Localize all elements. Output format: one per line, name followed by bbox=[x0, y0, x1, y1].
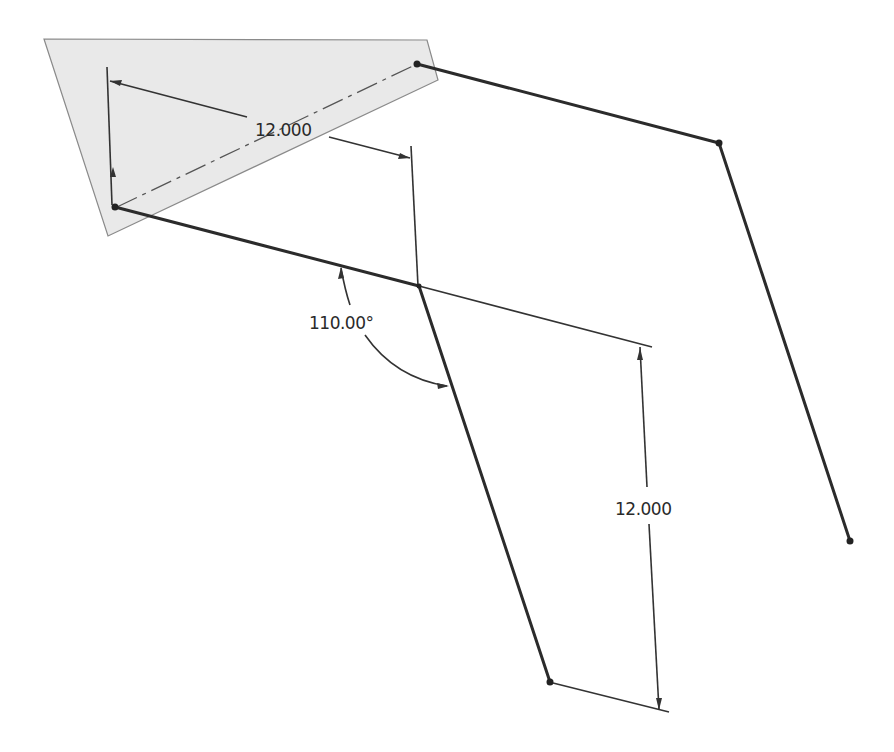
dimension-line-top-b bbox=[329, 137, 410, 158]
sketch-point-top[interactable] bbox=[414, 61, 421, 68]
extension-line-bottom bbox=[553, 683, 669, 712]
angle-arrowhead-upper-icon bbox=[338, 267, 344, 279]
angle-arc-lower bbox=[365, 335, 447, 386]
dimension-line-right-b bbox=[649, 524, 659, 710]
sketch-point-left[interactable] bbox=[112, 204, 119, 211]
dimension-label-right[interactable]: 12.000 bbox=[615, 499, 671, 519]
sketch-point-right-corner[interactable] bbox=[716, 140, 723, 147]
dimension-right-length[interactable]: 12.000 bbox=[553, 347, 671, 712]
segment-right-diagonal[interactable] bbox=[719, 143, 850, 541]
sketch-point-bottom[interactable] bbox=[547, 679, 554, 686]
dimension-angle[interactable]: 110.00° bbox=[309, 267, 652, 389]
reference-plane[interactable] bbox=[44, 39, 438, 236]
sketch-point-corner[interactable] bbox=[417, 284, 422, 289]
angle-arrowhead-lower-icon bbox=[437, 383, 449, 389]
arrowhead-right-icon bbox=[398, 153, 410, 159]
arrowhead-up-icon bbox=[637, 348, 643, 360]
segment-upper[interactable] bbox=[417, 64, 719, 143]
dimension-line-right-a bbox=[640, 347, 647, 487]
extension-line-right bbox=[411, 146, 418, 286]
sketch-point-right-end[interactable] bbox=[847, 538, 854, 545]
segment-lower-diagonal[interactable] bbox=[419, 286, 550, 682]
segment-left-lower[interactable] bbox=[115, 207, 419, 286]
sketch-canvas[interactable]: 12.000 110.00° 12.000 bbox=[0, 0, 894, 752]
dimension-label-top[interactable]: 12.000 bbox=[255, 120, 311, 140]
dimension-label-angle[interactable]: 110.00° bbox=[309, 313, 373, 333]
angle-extension-line bbox=[419, 286, 652, 347]
